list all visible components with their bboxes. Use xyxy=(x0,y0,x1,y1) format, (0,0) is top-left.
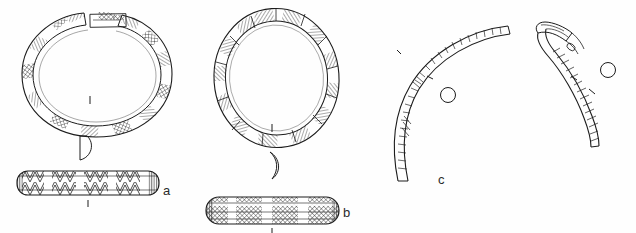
figure-a-group xyxy=(13,0,182,207)
figure-c-fragment-right xyxy=(536,22,599,147)
artefact-plate xyxy=(0,0,636,233)
figure-c-group xyxy=(394,22,615,181)
figure-c-cross-section-right xyxy=(601,63,616,78)
figure-c-tick-marks xyxy=(397,50,595,94)
figure-a-plan-view xyxy=(13,0,182,153)
figure-a-decoration xyxy=(13,0,182,153)
figure-a-cross-section xyxy=(80,136,91,160)
figure-a-band-elevation xyxy=(17,171,159,207)
figure-b-cross-section xyxy=(270,152,279,179)
figure-b-band-elevation xyxy=(206,197,339,233)
figure-c-right-terminal xyxy=(536,22,584,54)
figure-label-a: a xyxy=(163,183,170,198)
figure-label-c: c xyxy=(438,172,445,187)
figure-c-right-hatching xyxy=(553,48,599,141)
figure-c-fragment-left xyxy=(394,26,510,181)
figure-c-left-hatching xyxy=(398,27,501,169)
figure-label-b: b xyxy=(343,205,350,220)
figure-b-group xyxy=(200,0,349,233)
figure-c-cross-section-left xyxy=(441,88,456,103)
figure-b-plan-view xyxy=(200,0,349,155)
